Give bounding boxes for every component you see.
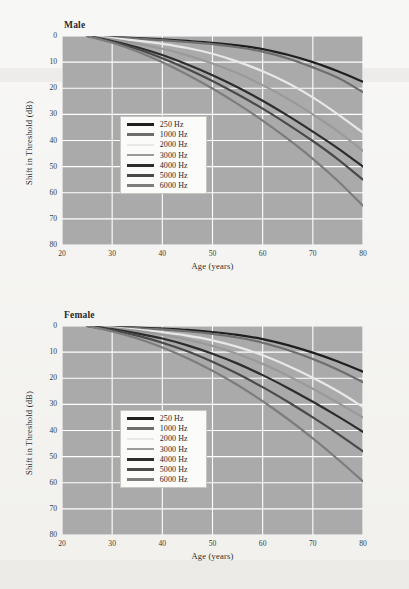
x-axis-label-female: Age (years) (62, 551, 363, 561)
y-tick-label: 20 (32, 373, 57, 382)
legend-swatch-line-icon (127, 448, 154, 451)
legend-swatch-line-icon (127, 144, 154, 147)
legend-item: 1000 Hz (121, 130, 206, 140)
legend-item: 250 Hz (121, 413, 206, 423)
y-tick-label: 30 (32, 399, 57, 408)
chart-panel-female: Female Shift in Threshold (dB) Age (year… (8, 296, 401, 580)
legend-label: 250 Hz (160, 414, 184, 423)
figure-page: Male Shift in Threshold (dB) Age (years)… (0, 0, 409, 589)
legend-item: 4000 Hz (121, 454, 206, 464)
x-tick-label: 60 (251, 539, 275, 548)
chart-panel-male: Male Shift in Threshold (dB) Age (years)… (8, 6, 401, 290)
x-tick-label: 40 (150, 249, 174, 258)
legend-female: 250 Hz1000 Hz2000 Hz3000 Hz4000 Hz5000 H… (120, 410, 207, 488)
y-tick-label: 0 (32, 321, 57, 330)
legend-swatch-line-icon (127, 174, 154, 177)
legend-item: 4000 Hz (121, 160, 206, 170)
x-tick-label: 30 (100, 249, 124, 258)
legend-item: 5000 Hz (121, 170, 206, 180)
legend-label: 1000 Hz (160, 130, 188, 139)
legend-swatch-line-icon (127, 417, 154, 420)
legend-item: 1000 Hz (121, 424, 206, 434)
x-tick-label: 20 (50, 249, 74, 258)
y-tick-label: 50 (32, 162, 57, 171)
legend-label: 4000 Hz (160, 455, 188, 464)
legend-item: 3000 Hz (121, 444, 206, 454)
legend-label: 5000 Hz (160, 465, 188, 474)
x-tick-label: 20 (50, 539, 74, 548)
legend-swatch-line-icon (127, 427, 154, 430)
x-tick-label: 70 (301, 539, 325, 548)
x-tick-label: 70 (301, 249, 325, 258)
legend-swatch-line-icon (127, 123, 154, 126)
x-tick-label: 60 (251, 249, 275, 258)
legend-label: 1000 Hz (160, 424, 188, 433)
x-tick-label: 80 (351, 249, 375, 258)
legend-item: 5000 Hz (121, 464, 206, 474)
legend-item: 2000 Hz (121, 434, 206, 444)
x-tick-label: 80 (351, 539, 375, 548)
legend-item: 6000 Hz (121, 181, 206, 191)
plot-area-female (62, 326, 363, 535)
y-tick-label: 80 (32, 530, 57, 539)
legend-swatch-line-icon (127, 478, 154, 481)
x-tick-label: 50 (201, 249, 225, 258)
legend-item: 2000 Hz (121, 140, 206, 150)
x-tick-label: 40 (150, 539, 174, 548)
y-tick-label: 50 (32, 452, 57, 461)
legend-label: 6000 Hz (160, 475, 188, 484)
legend-label: 2000 Hz (160, 434, 188, 443)
chart-title-male: Male (64, 20, 85, 30)
y-tick-label: 20 (32, 83, 57, 92)
x-axis-label-male: Age (years) (62, 261, 363, 271)
legend-label: 4000 Hz (160, 161, 188, 170)
legend-label: 3000 Hz (160, 151, 188, 160)
y-tick-label: 60 (32, 478, 57, 487)
y-tick-label: 40 (32, 426, 57, 435)
legend-item: 6000 Hz (121, 475, 206, 485)
legend-label: 6000 Hz (160, 181, 188, 190)
y-tick-label: 10 (32, 57, 57, 66)
y-tick-label: 60 (32, 188, 57, 197)
x-tick-label: 50 (201, 539, 225, 548)
legend-male: 250 Hz1000 Hz2000 Hz3000 Hz4000 Hz5000 H… (120, 116, 207, 194)
x-tick-label: 30 (100, 539, 124, 548)
legend-swatch-line-icon (127, 133, 154, 136)
legend-label: 5000 Hz (160, 171, 188, 180)
plot-area-male (62, 36, 363, 245)
legend-swatch-line-icon (127, 458, 154, 461)
y-tick-label: 80 (32, 240, 57, 249)
legend-swatch-line-icon (127, 438, 154, 441)
legend-swatch-line-icon (127, 154, 154, 157)
y-tick-label: 70 (32, 214, 57, 223)
legend-item: 3000 Hz (121, 150, 206, 160)
legend-swatch-line-icon (127, 164, 154, 167)
y-tick-label: 40 (32, 136, 57, 145)
legend-item: 250 Hz (121, 119, 206, 129)
legend-label: 3000 Hz (160, 445, 188, 454)
y-tick-label: 10 (32, 347, 57, 356)
chart-title-female: Female (64, 310, 95, 320)
legend-swatch-line-icon (127, 468, 154, 471)
y-tick-label: 70 (32, 504, 57, 513)
y-tick-label: 30 (32, 109, 57, 118)
legend-swatch-line-icon (127, 184, 154, 187)
legend-label: 2000 Hz (160, 140, 188, 149)
legend-label: 250 Hz (160, 120, 184, 129)
y-tick-label: 0 (32, 31, 57, 40)
